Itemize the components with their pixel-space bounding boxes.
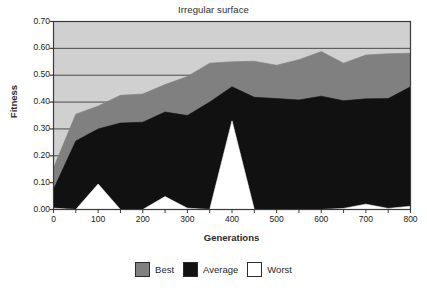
x-tick-label: 500 — [257, 214, 297, 224]
x-tick-label: 600 — [301, 214, 341, 224]
x-axis-ticks: 0100200300400500600700800 — [0, 214, 427, 228]
chart-legend: BestAverageWorst — [0, 262, 427, 277]
x-axis-label: Generations — [53, 232, 410, 243]
legend-swatch-icon — [247, 262, 262, 277]
legend-swatch-icon — [135, 262, 150, 277]
legend-item-average: Average — [183, 262, 238, 277]
x-tick-label: 300 — [167, 214, 207, 224]
legend-label: Best — [155, 264, 174, 275]
legend-item-worst: Worst — [247, 262, 292, 277]
x-tick-label: 0 — [34, 214, 74, 224]
x-tick-label: 400 — [212, 214, 252, 224]
x-tick-label: 100 — [78, 214, 118, 224]
x-tick-label: 800 — [391, 214, 427, 224]
x-tick-label: 200 — [123, 214, 163, 224]
legend-label: Worst — [267, 264, 292, 275]
x-tick-label: 700 — [346, 214, 386, 224]
plot-area — [0, 0, 427, 298]
legend-item-best: Best — [135, 262, 174, 277]
legend-label: Average — [203, 264, 238, 275]
chart-figure: Irregular surface Fitness 0.000.100.200.… — [0, 0, 427, 298]
legend-swatch-icon — [183, 262, 198, 277]
